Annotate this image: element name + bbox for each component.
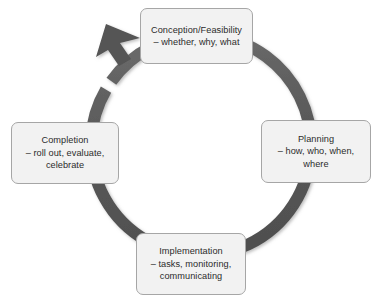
cycle-node-implementation-label: Implementation – tasks, monitoring, comm… xyxy=(146,245,237,282)
cycle-node-planning-label: Planning – how, who, when, where xyxy=(273,133,359,170)
cycle-node-completion-label: Completion – roll out, evaluate, celebra… xyxy=(21,134,110,171)
cycle-node-completion[interactable]: Completion – roll out, evaluate, celebra… xyxy=(11,122,119,184)
cycle-node-conception[interactable]: Conception/Feasibility – whether, why, w… xyxy=(140,8,253,64)
cycle-node-conception-label: Conception/Feasibility – whether, why, w… xyxy=(146,24,247,49)
cycle-node-planning[interactable]: Planning – how, who, when, where xyxy=(261,120,371,183)
cycle-node-implementation[interactable]: Implementation – tasks, monitoring, comm… xyxy=(136,233,246,295)
cycle-diagram: Conception/Feasibility – whether, why, w… xyxy=(0,0,376,301)
